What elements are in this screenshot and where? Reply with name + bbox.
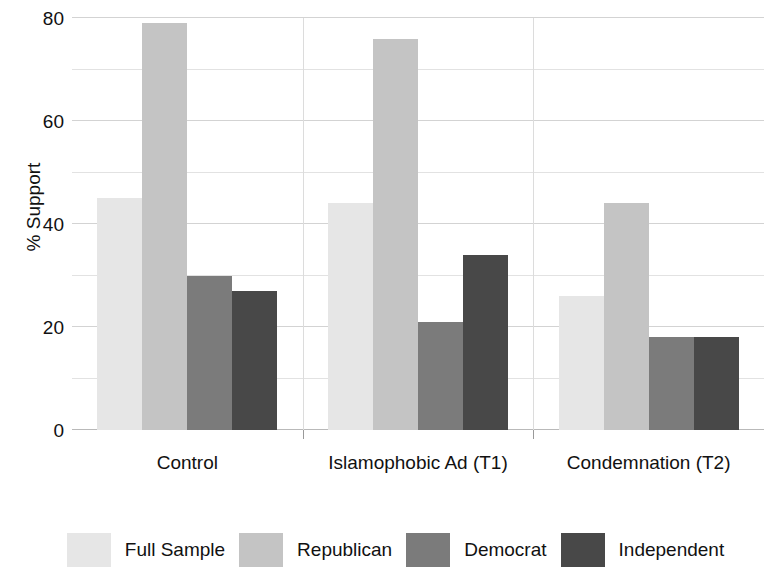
bar[interactable]	[649, 337, 694, 430]
x-tick-label: Islamophobic Ad (T1)	[303, 452, 534, 474]
legend-item[interactable]: Democrat	[392, 533, 546, 567]
legend-item[interactable]: Independent	[547, 533, 725, 567]
bar[interactable]	[604, 203, 649, 430]
bar-group	[72, 18, 303, 430]
bar-chart-figure: % Support 806040200 ControlIslamophobic …	[0, 0, 777, 584]
plot-area	[72, 18, 764, 430]
bar[interactable]	[559, 296, 604, 430]
legend-swatch	[67, 533, 111, 567]
legend-item[interactable]: Full Sample	[53, 533, 225, 567]
bar[interactable]	[373, 39, 418, 430]
x-axis-labels: ControlIslamophobic Ad (T1)Condemnation …	[72, 452, 764, 474]
bar[interactable]	[418, 322, 463, 430]
bar[interactable]	[97, 198, 142, 430]
x-tick-label: Condemnation (T2)	[533, 452, 764, 474]
legend-label: Republican	[297, 539, 392, 561]
bar[interactable]	[142, 23, 187, 430]
y-tick-label: 20	[18, 318, 64, 337]
chart-legend: Full SampleRepublicanDemocratIndependent	[0, 528, 777, 572]
legend-swatch	[239, 533, 283, 567]
y-tick-label: 0	[18, 421, 64, 440]
x-tick-mark	[303, 430, 304, 439]
bar-groups	[72, 18, 764, 430]
y-tick-label: 40	[18, 215, 64, 234]
legend-label: Democrat	[464, 539, 546, 561]
y-tick-label: 80	[18, 9, 64, 28]
legend-item[interactable]: Republican	[225, 533, 392, 567]
y-axis-tick-labels: 806040200	[0, 0, 64, 584]
legend-swatch	[561, 533, 605, 567]
bar[interactable]	[328, 203, 373, 430]
bar[interactable]	[232, 291, 277, 430]
x-tick-mark	[533, 430, 534, 439]
x-tick-label: Control	[72, 452, 303, 474]
legend-label: Independent	[619, 539, 725, 561]
y-tick-label: 60	[18, 112, 64, 131]
bar-group	[303, 18, 534, 430]
legend-swatch	[406, 533, 450, 567]
bar-group	[533, 18, 764, 430]
legend-label: Full Sample	[125, 539, 225, 561]
bar[interactable]	[694, 337, 739, 430]
bar[interactable]	[187, 276, 232, 431]
bar[interactable]	[463, 255, 508, 430]
